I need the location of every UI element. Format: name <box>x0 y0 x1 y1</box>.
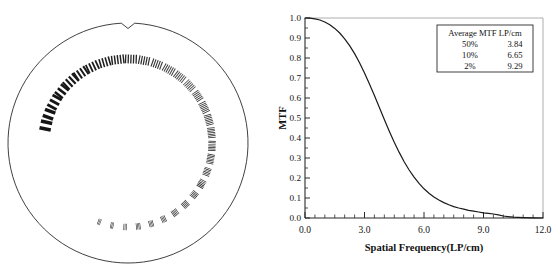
pattern-bar <box>203 171 210 174</box>
pattern-bar <box>147 57 150 66</box>
bar-group-26 <box>171 208 180 217</box>
pattern-bar <box>169 67 174 75</box>
bar-group-28 <box>148 220 154 228</box>
x-tick-label: 12.0 <box>535 225 552 235</box>
bar-group-24 <box>189 190 198 199</box>
y-tick-label: 0.1 <box>290 193 302 203</box>
pattern-bar <box>130 55 132 64</box>
pattern-bar <box>143 56 146 65</box>
y-tick-label: 0.7 <box>290 73 302 83</box>
pattern-bar <box>140 56 143 65</box>
bar-group-16 <box>192 90 204 103</box>
pattern-bar <box>42 114 53 121</box>
pattern-bar <box>199 102 206 106</box>
pattern-bar <box>98 219 101 225</box>
pattern-bar <box>167 66 172 74</box>
legend-value: 9.29 <box>507 61 522 71</box>
pattern-bar <box>119 55 122 64</box>
y-tick-label: 0.3 <box>290 153 302 163</box>
bar-group-25 <box>181 200 190 209</box>
pattern-bar <box>123 224 124 230</box>
bar-group-14 <box>173 70 187 83</box>
legend-header: Average MTF LP/cm <box>448 28 522 38</box>
bar-group-30 <box>123 224 126 231</box>
pattern-bar <box>198 101 205 105</box>
pattern-bar <box>208 149 215 150</box>
x-tick-label: 9.0 <box>478 225 490 235</box>
bar-group-18 <box>204 114 214 126</box>
pattern-bar <box>122 54 125 63</box>
pattern-bar <box>126 224 127 230</box>
bar-group-20 <box>208 141 216 151</box>
y-tick-label: 0.6 <box>290 93 302 103</box>
bar-group-27 <box>160 215 167 223</box>
pattern-bar <box>203 110 210 114</box>
bar-group-31 <box>110 222 114 229</box>
pattern-bar <box>139 223 140 230</box>
pattern-bar <box>39 126 51 132</box>
pattern-bar <box>125 224 126 230</box>
pattern-bar <box>116 55 119 64</box>
pattern-bar <box>125 54 127 63</box>
y-tick-label: 0.0 <box>290 213 302 223</box>
pattern-bar <box>135 55 137 64</box>
pattern-bar <box>114 55 117 64</box>
bar-group-11 <box>138 55 150 66</box>
bar-group-29 <box>136 223 141 230</box>
y-tick-label: 1.0 <box>290 13 302 23</box>
y-axis-ticks: 0.00.10.20.30.40.50.60.70.80.91.0 <box>290 13 310 223</box>
pattern-bar <box>208 135 216 137</box>
pattern-bar <box>202 174 209 177</box>
y-axis-title: MTF <box>277 106 288 129</box>
pattern-bar <box>208 134 216 136</box>
pattern-bar <box>136 223 137 230</box>
pattern-bar <box>205 167 212 170</box>
legend-percent: 50% <box>462 39 478 49</box>
mtf-plot-panel: 0.00.10.20.30.40.50.60.70.80.91.00.03.06… <box>277 0 554 278</box>
pattern-bar <box>104 57 108 66</box>
pattern-bar <box>133 55 135 64</box>
bar-group-12 <box>150 58 163 69</box>
y-tick-label: 0.8 <box>290 53 302 63</box>
pattern-bar <box>208 142 215 143</box>
pattern-bar <box>204 168 211 171</box>
bar-group-22 <box>202 167 212 177</box>
bar-group-17 <box>198 101 210 114</box>
bar-pattern-groups <box>39 54 216 230</box>
pattern-bar <box>145 57 148 66</box>
y-tick-label: 0.2 <box>290 173 302 183</box>
y-tick-label: 0.9 <box>290 33 302 43</box>
bar-group-32 <box>97 219 102 226</box>
bar-group-1 <box>39 119 52 132</box>
pattern-bar <box>162 63 167 71</box>
pattern-bar <box>127 55 129 64</box>
pattern-bar <box>41 119 53 125</box>
legend-percent: 2% <box>464 61 475 71</box>
pattern-bar <box>207 130 215 132</box>
x-axis-title: Spatial Frequency(LP/cm) <box>365 242 484 254</box>
y-tick-label: 0.4 <box>290 133 302 143</box>
pattern-bar <box>208 150 215 151</box>
pattern-bar <box>164 64 169 72</box>
pattern-bar <box>200 105 207 109</box>
pattern-bar <box>208 144 215 145</box>
x-tick-label: 6.0 <box>418 225 430 235</box>
x-axis-ticks: 0.03.06.09.012.0 <box>299 212 552 235</box>
bar-group-8 <box>98 56 111 68</box>
pattern-bar <box>207 127 215 129</box>
bar-group-9 <box>111 54 125 65</box>
legend-box: Average MTF LP/cm50%3.8410%6.652%9.29 <box>437 25 533 72</box>
bar-group-10 <box>125 54 137 63</box>
bar-group-21 <box>206 154 215 165</box>
legend-percent: 10% <box>462 50 478 60</box>
pattern-bar <box>138 55 141 64</box>
pattern-bar <box>138 223 139 230</box>
phantom-panel <box>0 0 277 278</box>
pattern-bar <box>208 132 216 134</box>
pattern-bar <box>200 104 207 108</box>
pattern-bar <box>207 129 215 131</box>
pattern-bar <box>203 172 210 175</box>
pattern-bar <box>165 65 170 73</box>
bar-group-15 <box>183 79 196 92</box>
pattern-bar <box>99 219 102 225</box>
